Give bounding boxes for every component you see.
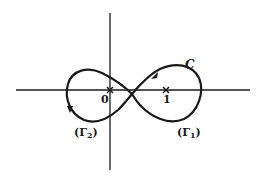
label-gamma-2: (Γ2) xyxy=(74,127,98,139)
contour-c-left-lobe xyxy=(67,70,132,122)
label-origin: 0 xyxy=(101,94,109,105)
gamma-1-text: (Γ xyxy=(177,126,190,139)
label-gamma-1: (Γ1) xyxy=(177,127,201,139)
gamma-2-text: (Γ xyxy=(74,126,87,139)
gamma-2-close: ) xyxy=(93,126,98,139)
gamma-1-close: ) xyxy=(196,126,201,139)
label-curve-c: C xyxy=(185,59,195,71)
label-one: 1 xyxy=(163,94,171,105)
figure-eight-contour-diagram: 0 1 C (Γ2) (Γ1) xyxy=(0,0,262,178)
diagram-svg xyxy=(0,0,262,178)
